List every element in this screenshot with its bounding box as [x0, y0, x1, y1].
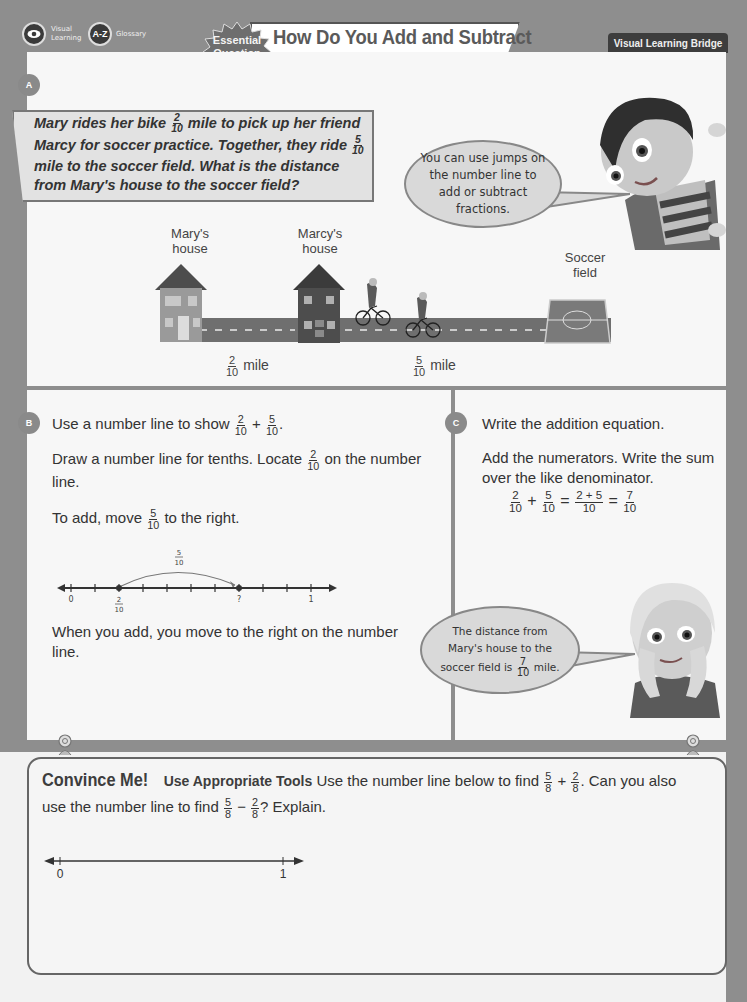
fraction: 510: [352, 135, 364, 157]
blank-number-line[interactable]: 0 1: [44, 852, 306, 882]
svg-text:Essential: Essential: [213, 34, 261, 46]
visual-learning-bridge-tab: Visual Learning Bridge: [608, 33, 728, 53]
panel-b-line-2: Draw a number line for tenths. Locate 21…: [52, 449, 432, 492]
visual-learning-eye-icon[interactable]: [22, 22, 46, 46]
road-scene-illustration: [155, 260, 615, 345]
textbook-page: Visual Learning A-Z Glossary Essential Q…: [0, 0, 747, 1002]
marys-house-label: Mary'shouse: [160, 226, 220, 256]
fraction: 210: [171, 113, 183, 135]
section-letter-c: C: [445, 412, 467, 434]
page-edge-strip: [726, 0, 747, 1002]
girl-character-illustration: [620, 578, 726, 718]
glossary-az-icon[interactable]: A-Z: [88, 22, 112, 46]
tack-icon: [684, 734, 702, 756]
svg-text:1: 1: [308, 595, 313, 604]
section-letter-a: A: [18, 74, 40, 96]
speech-bubble-boy: You can use jumps on the number line to …: [404, 140, 562, 228]
speech-bubble-girl: The distance from Mary's house to the so…: [420, 606, 580, 694]
panel-b-line-4: When you add, you move to the right on t…: [52, 622, 422, 662]
visual-learning-label[interactable]: Visual Learning: [51, 25, 81, 43]
tack-icon: [56, 734, 74, 756]
tenths-number-line: 5 10 0 2 10 ? 1: [55, 545, 345, 617]
boy-character-illustration: [585, 90, 727, 250]
svg-text:0: 0: [68, 595, 73, 604]
addition-equation: 210 + 510 = 2 + 510 = 710: [508, 490, 637, 514]
panel-b-line-1: Use a number line to show 210 + 510.: [52, 414, 432, 437]
glossary-label[interactable]: Glossary: [116, 30, 146, 39]
svg-text:2: 2: [117, 596, 121, 604]
svg-text:5: 5: [177, 549, 181, 557]
problem-statement: Mary rides her bike 210 mile to pick up …: [34, 113, 374, 195]
svg-text:?: ?: [237, 595, 241, 604]
section-letter-b: B: [18, 412, 40, 434]
marcys-house-label: Marcy'shouse: [290, 226, 350, 256]
panel-b-line-3: To add, move 510 to the right.: [52, 508, 432, 531]
svg-text:1: 1: [280, 867, 287, 881]
svg-text:10: 10: [175, 559, 184, 567]
svg-text:10: 10: [115, 606, 124, 614]
panel-c-line-1: Write the addition equation.: [482, 414, 722, 434]
svg-text:0: 0: [57, 867, 64, 881]
distance-label-1: 210 mile: [225, 355, 269, 378]
convince-me-prompt: Convince Me! Use Appropriate Tools Use t…: [42, 767, 702, 820]
panel-c-line-2: Add the numerators. Write the sum over t…: [482, 448, 722, 488]
distance-label-2: 510 mile: [412, 355, 456, 378]
